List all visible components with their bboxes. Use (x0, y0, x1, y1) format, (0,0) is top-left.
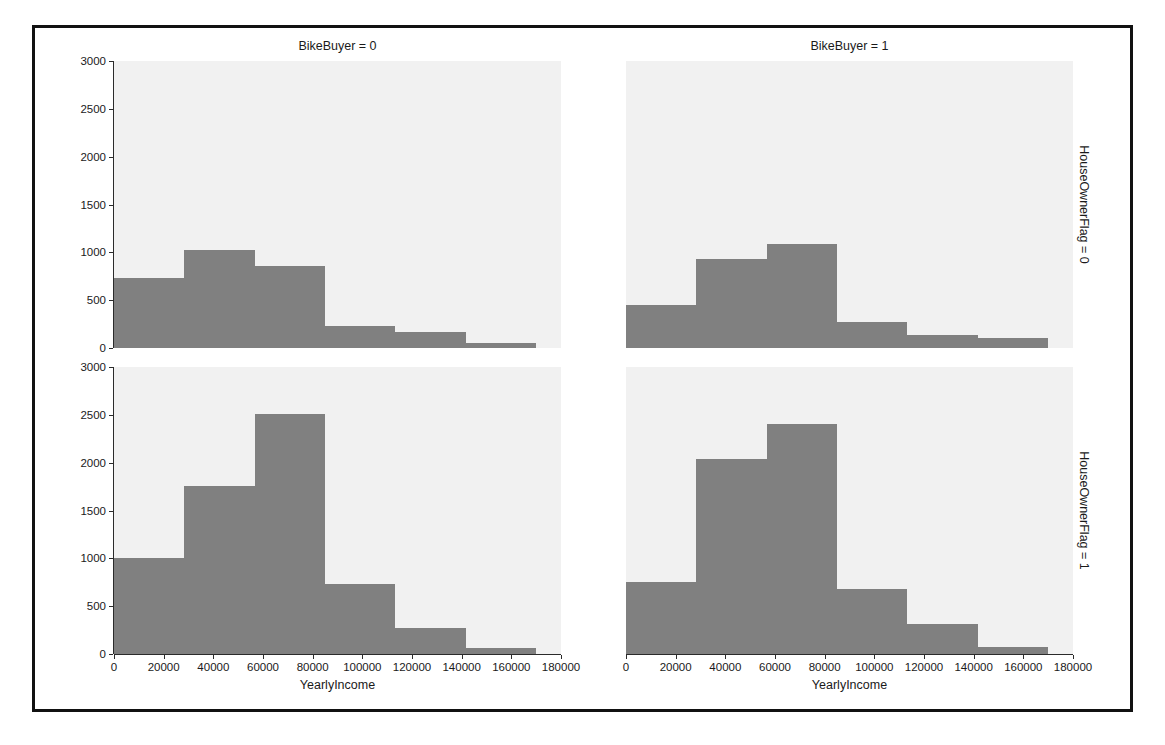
x-tick-mark (313, 655, 314, 659)
x-tick-mark (725, 655, 726, 659)
x-tick-label: 160000 (492, 661, 530, 673)
y-tick-label: 1500 (68, 199, 106, 211)
x-tick-mark (626, 655, 627, 659)
bar (626, 305, 696, 348)
x-tick-mark (114, 655, 115, 659)
bar (767, 244, 837, 348)
bar (114, 558, 184, 654)
y-tick-mark (109, 252, 113, 253)
bar (978, 338, 1048, 348)
y-tick-mark (109, 367, 113, 368)
y-tick-label: 2000 (68, 151, 106, 163)
y-tick-label: 1000 (68, 246, 106, 258)
bar (325, 326, 395, 348)
x-tick-mark (412, 655, 413, 659)
x-tick-label: 20000 (660, 661, 692, 673)
facet-panel-r0-c0 (114, 61, 561, 348)
bar (114, 278, 184, 348)
x-tick-label: 160000 (1004, 661, 1042, 673)
y-tick-mark (109, 205, 113, 206)
y-tick-mark (109, 61, 113, 62)
bar (395, 628, 465, 654)
y-tick-mark (109, 348, 113, 349)
x-tick-label: 180000 (542, 661, 580, 673)
y-tick-label: 500 (68, 600, 106, 612)
x-tick-mark (874, 655, 875, 659)
y-tick-mark (109, 606, 113, 607)
y-tick-label: 1500 (68, 505, 106, 517)
y-tick-mark (109, 654, 113, 655)
bar (696, 259, 766, 348)
x-tick-label: 120000 (905, 661, 943, 673)
x-tick-mark (825, 655, 826, 659)
y-tick-label: 500 (68, 294, 106, 306)
y-axis-r1 (113, 367, 114, 654)
bar (184, 250, 254, 348)
x-tick-mark (561, 655, 562, 659)
x-tick-mark (974, 655, 975, 659)
x-tick-label: 100000 (343, 661, 381, 673)
y-tick-label: 0 (68, 342, 106, 354)
bar (466, 343, 536, 348)
bar-series (626, 61, 1073, 348)
bar (626, 582, 696, 654)
x-axis-label-c1: YearlyIncome (626, 678, 1073, 692)
x-tick-label: 40000 (709, 661, 741, 673)
x-tick-mark (511, 655, 512, 659)
x-tick-label: 140000 (442, 661, 480, 673)
facet-col-title-0: BikeBuyer = 0 (114, 39, 561, 53)
bar (837, 322, 907, 348)
y-tick-label: 0 (68, 648, 106, 660)
y-tick-mark (109, 558, 113, 559)
x-tick-label: 180000 (1054, 661, 1092, 673)
bar (767, 424, 837, 654)
y-tick-mark (109, 463, 113, 464)
x-tick-label: 20000 (148, 661, 180, 673)
y-tick-mark (109, 109, 113, 110)
facet-row-label-0: HouseOwnerFlag = 0 (1077, 61, 1091, 348)
x-tick-mark (1073, 655, 1074, 659)
facet-grid: BikeBuyer = 0BikeBuyer = 1HouseOwnerFlag… (35, 28, 1130, 709)
x-axis-c1 (626, 654, 1073, 655)
x-tick-mark (775, 655, 776, 659)
x-tick-mark (1023, 655, 1024, 659)
facet-panel-r1-c0 (114, 367, 561, 654)
x-tick-label: 40000 (197, 661, 229, 673)
x-tick-label: 80000 (297, 661, 329, 673)
x-tick-label: 0 (623, 661, 629, 673)
x-tick-label: 100000 (855, 661, 893, 673)
facet-col-title-1: BikeBuyer = 1 (626, 39, 1073, 53)
y-tick-label: 2500 (68, 409, 106, 421)
x-tick-label: 80000 (809, 661, 841, 673)
bar (978, 647, 1048, 654)
x-tick-label: 60000 (247, 661, 279, 673)
facet-panel-r1-c1 (626, 367, 1073, 654)
bar-series (114, 367, 561, 654)
x-tick-label: 0 (111, 661, 117, 673)
x-tick-mark (213, 655, 214, 659)
x-tick-label: 120000 (393, 661, 431, 673)
x-axis-label-c0: YearlyIncome (114, 678, 561, 692)
bar (395, 332, 465, 348)
y-tick-label: 3000 (68, 55, 106, 67)
bar (907, 624, 977, 654)
x-tick-mark (462, 655, 463, 659)
figure-frame: BikeBuyer = 0BikeBuyer = 1HouseOwnerFlag… (32, 25, 1133, 712)
facet-row-label-1: HouseOwnerFlag = 1 (1077, 367, 1091, 654)
y-axis-r0 (113, 61, 114, 348)
x-tick-mark (924, 655, 925, 659)
bar (184, 486, 254, 654)
y-tick-label: 1000 (68, 552, 106, 564)
y-tick-mark (109, 300, 113, 301)
bar (255, 266, 325, 348)
x-tick-label: 140000 (954, 661, 992, 673)
bar-series (626, 367, 1073, 654)
bar-series (114, 61, 561, 348)
bar (837, 589, 907, 654)
y-tick-label: 2500 (68, 103, 106, 115)
y-tick-mark (109, 511, 113, 512)
x-tick-label: 60000 (759, 661, 791, 673)
facet-panel-r0-c1 (626, 61, 1073, 348)
y-tick-label: 3000 (68, 361, 106, 373)
bar (255, 414, 325, 654)
